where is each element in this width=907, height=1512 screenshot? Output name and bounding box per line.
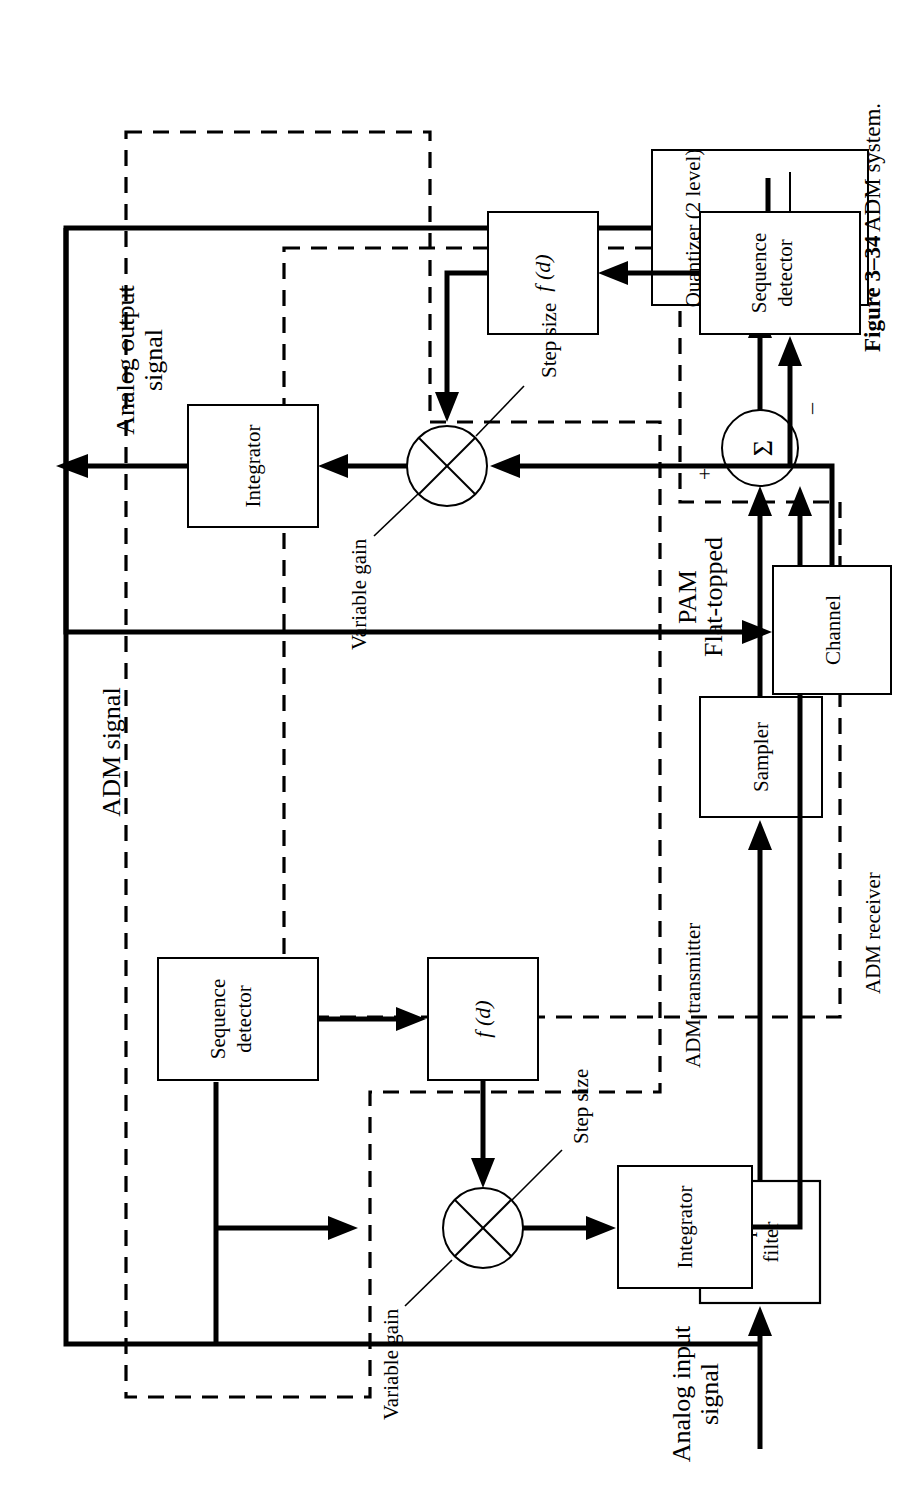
block-tx-fd-label: f (d) (470, 1000, 495, 1037)
block-sampler-label: Sampler (749, 722, 773, 792)
block-rx-fd-label: f (d) (530, 254, 555, 291)
figure-caption-text: ADM system. (860, 103, 885, 232)
leader-tx-variable-gain (405, 1260, 452, 1306)
label-analog-input-line2: signal (695, 1363, 724, 1425)
rotated-figure-wrapper: Low-pass filter Sampler Flat-topped PAM … (0, 0, 907, 1512)
label-adm-receiver: ADM receiver (861, 872, 885, 994)
annotation-tx-step-size: Step size (569, 1069, 593, 1144)
arrowhead-rx-tap-to-seqdet (778, 336, 802, 366)
arrowhead-analog-output (56, 454, 88, 478)
arrowhead-lpf-to-sampler (748, 820, 772, 850)
label-adm-signal: ADM signal (97, 687, 126, 816)
block-tx-integrator-label: Integrator (673, 1186, 697, 1269)
annotation-summer-minus: – (798, 402, 823, 415)
arrowhead-adm-to-channel (742, 620, 772, 644)
arrowhead-channel-to-rx-multiplier (490, 454, 520, 478)
arrowhead-rx-multiplier-to-integrator (318, 454, 348, 478)
figure-caption-number: Figure 3–34 (860, 235, 885, 352)
arrowhead-rx-seqdet-to-fd (598, 261, 628, 285)
label-analog-output-line2: signal (139, 329, 168, 391)
arrowhead-tap-to-multiplier (328, 1216, 358, 1240)
label-analog-output-line1: Analog output (111, 284, 140, 434)
arrowhead-rx-fd-to-multiplier (435, 392, 459, 422)
leader-rx-step-size (476, 386, 524, 436)
adm-system-diagram: Low-pass filter Sampler Flat-topped PAM … (0, 0, 907, 1512)
leader-tx-step-size (512, 1150, 562, 1200)
wire-channel-to-receiver (517, 466, 832, 566)
label-analog-input-line1: Analog input (667, 1325, 696, 1462)
block-tx-multiplier (443, 1188, 523, 1268)
leader-rx-variable-gain (374, 494, 418, 536)
block-channel-label: Channel (821, 595, 845, 665)
annotation-summer-plus: + (692, 468, 717, 480)
block-rx-sequence-detector-label-line2: detector (773, 239, 797, 307)
wire-rx-fd-to-multiplier (447, 273, 488, 394)
block-tx-sequence-detector-label-line1: Sequence (206, 979, 230, 1059)
block-rx-integrator-label: Integrator (241, 425, 265, 508)
block-summer-label: Σ (747, 440, 778, 456)
annotation-tx-variable-gain: Variable gain (379, 1308, 403, 1420)
label-flat-topped-pam-line2: PAM (673, 570, 702, 624)
wire-adm-to-channel (66, 228, 745, 632)
arrowhead-analog-input (748, 1306, 772, 1336)
annotation-rx-variable-gain: Variable gain (347, 538, 371, 650)
label-flat-topped-pam-line1: Flat-topped (699, 537, 728, 657)
block-rx-multiplier (407, 426, 487, 506)
block-rx-sequence-detector-label-line1: Sequence (747, 233, 771, 313)
arrowhead-tx-fd-to-multiplier (471, 1158, 495, 1188)
arrowhead-tx-seqdet-to-fd (396, 1007, 426, 1031)
block-tx-sequence-detector-label-line2: detector (232, 985, 256, 1053)
annotation-rx-step-size: Step size (537, 303, 561, 378)
arrowhead-tx-multiplier-to-integrator (586, 1216, 616, 1240)
label-adm-transmitter: ADM transmitter (681, 923, 705, 1068)
figure-page: Low-pass filter Sampler Flat-topped PAM … (0, 0, 907, 1512)
